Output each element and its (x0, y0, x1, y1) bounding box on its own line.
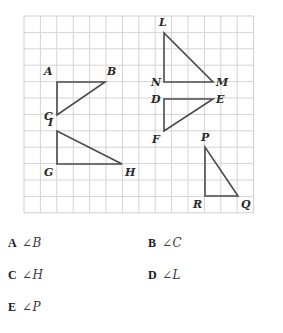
choice-C[interactable]: C ∠H (8, 268, 44, 283)
vertex-label-A: A (44, 66, 53, 77)
choice-letter: E (8, 300, 22, 315)
choice-text: ∠C (162, 236, 182, 250)
triangle-PQR (205, 147, 238, 196)
choice-A[interactable]: A ∠B (8, 236, 42, 251)
choice-E[interactable]: E ∠P (8, 300, 41, 315)
choice-D[interactable]: D ∠L (148, 268, 181, 283)
vertex-label-M: M (216, 77, 228, 88)
vertex-label-H: H (125, 167, 135, 178)
vertex-label-B: B (107, 66, 116, 77)
vertex-label-R: R (193, 199, 202, 210)
choice-text: ∠P (22, 300, 41, 314)
choice-letter: D (148, 268, 162, 283)
vertex-label-Q: Q (241, 199, 251, 210)
vertex-label-L: L (159, 17, 167, 28)
vertex-label-F: F (152, 134, 160, 145)
vertex-label-G: G (44, 167, 53, 178)
figure-panel: ABCIGHLNMDEFPRQ (0, 0, 283, 232)
choice-letter: B (148, 236, 162, 251)
vertex-label-N: N (151, 77, 161, 88)
answer-choices: A ∠B B ∠C C ∠H D ∠L E ∠P (0, 236, 283, 333)
vertex-label-E: E (216, 94, 224, 105)
choice-letter: A (8, 236, 22, 251)
choice-text: ∠H (22, 268, 44, 282)
choice-text: ∠B (22, 236, 42, 250)
choice-B[interactable]: B ∠C (148, 236, 182, 251)
vertex-label-P: P (201, 132, 209, 143)
choice-letter: C (8, 268, 22, 283)
vertex-label-I: I (48, 117, 53, 128)
choice-text: ∠L (162, 268, 181, 282)
vertex-label-D: D (151, 94, 161, 105)
